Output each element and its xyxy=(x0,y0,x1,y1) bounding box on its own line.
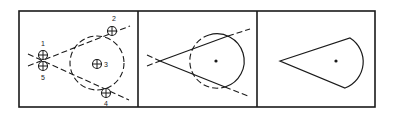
dashed-extension-lower-left xyxy=(147,55,160,61)
panel-3 xyxy=(280,38,363,88)
dashed-extension-lower-right xyxy=(225,87,248,96)
panel-2 xyxy=(147,29,250,96)
marker-label-1: 1 xyxy=(41,40,45,47)
outer-frame xyxy=(19,11,375,107)
marker-label-3: 3 xyxy=(104,61,108,68)
dashed-extension-upper-right xyxy=(228,29,250,36)
center-point xyxy=(334,59,337,62)
tangent-line-upper xyxy=(160,36,228,61)
marker-1: 1 xyxy=(39,40,48,60)
marker-label-5: 5 xyxy=(41,74,45,81)
solid-circle-arc xyxy=(209,34,244,87)
construction-diagram: 1 5 2 3 4 xyxy=(0,0,395,116)
tangent-line-lower xyxy=(160,61,225,87)
marker-label-2: 2 xyxy=(112,15,116,22)
cone-shape xyxy=(280,38,363,88)
marker-label-4: 4 xyxy=(104,100,108,107)
marker-2: 2 xyxy=(108,15,117,36)
marker-3: 3 xyxy=(93,60,109,69)
marker-5: 5 xyxy=(39,62,48,82)
panel-1: 1 5 2 3 4 xyxy=(28,15,130,107)
marker-4: 4 xyxy=(102,89,111,108)
center-point xyxy=(214,59,217,62)
dashed-extension-upper-left xyxy=(147,61,160,66)
